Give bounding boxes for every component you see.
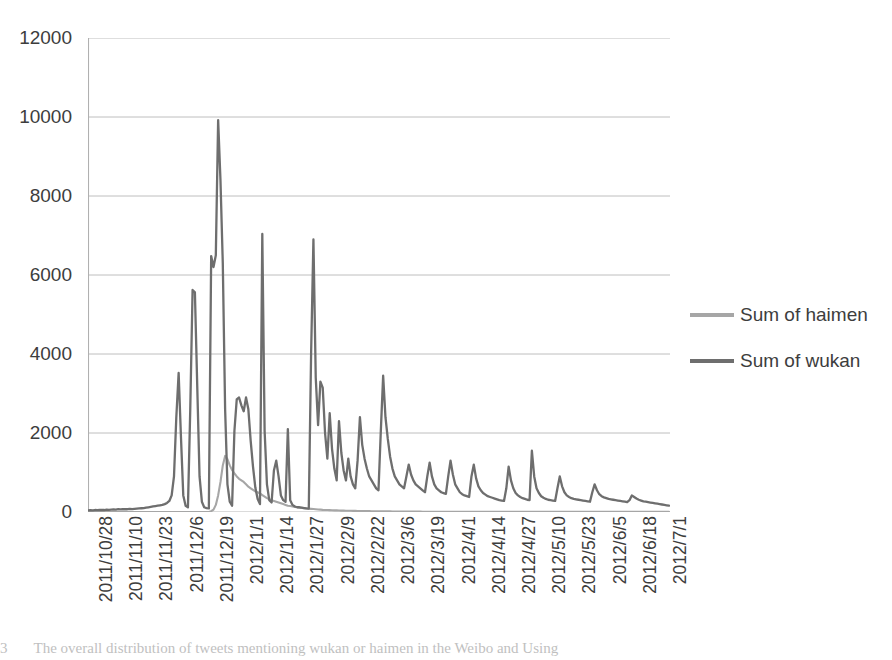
- x-tick-label: 2012/6/18: [642, 516, 660, 594]
- series-line-wukan: [88, 120, 669, 510]
- figure-caption: 3The overall distribution of tweets ment…: [0, 640, 892, 657]
- y-tick-label: 8000: [30, 185, 72, 207]
- x-tick-label: 2012/1/1: [249, 516, 267, 584]
- x-tick-label: 2012/2/9: [340, 516, 358, 584]
- x-tick-label: 2012/1/14: [279, 516, 297, 594]
- y-tick-label: 12000: [19, 27, 72, 49]
- legend-swatch-icon: [690, 313, 734, 317]
- legend-item[interactable]: Sum of haimen: [690, 292, 890, 338]
- caption-number: 3: [0, 640, 8, 656]
- x-tick-label: 2012/4/27: [521, 516, 539, 594]
- y-tick-label: 4000: [30, 343, 72, 365]
- x-axis: 2011/10/282011/11/102011/11/232011/12/62…: [88, 516, 670, 636]
- x-tick-label: 2011/10/28: [98, 516, 116, 602]
- figure-container: 020004000600080001000012000 2011/10/2820…: [0, 0, 892, 660]
- line-chart-svg: [88, 38, 670, 512]
- y-tick-label: 0: [61, 501, 72, 523]
- x-tick-label: 2011/12/6: [189, 516, 207, 593]
- x-tick-label: 2012/7/1: [672, 516, 690, 584]
- x-tick-label: 2012/6/5: [612, 516, 630, 584]
- x-tick-label: 2012/5/10: [551, 516, 569, 594]
- x-tick-label: 2012/4/1: [461, 516, 479, 584]
- y-axis: 020004000600080001000012000: [0, 38, 82, 512]
- chart-legend: Sum of haimenSum of wukan: [690, 292, 890, 384]
- x-tick-label: 2012/4/14: [491, 516, 509, 594]
- y-tick-label: 6000: [30, 264, 72, 286]
- y-tick-label: 2000: [30, 422, 72, 444]
- x-tick-label: 2011/11/10: [128, 516, 146, 601]
- x-tick-label: 2011/11/23: [158, 516, 176, 601]
- x-tick-label: 2012/2/22: [370, 516, 388, 594]
- caption-text: The overall distribution of tweets menti…: [34, 640, 559, 656]
- x-tick-label: 2012/1/27: [309, 516, 327, 594]
- legend-item[interactable]: Sum of wukan: [690, 338, 890, 384]
- legend-swatch-icon: [690, 359, 734, 363]
- y-tick-label: 10000: [19, 106, 72, 128]
- legend-label: Sum of wukan: [740, 350, 860, 372]
- x-tick-label: 2012/3/19: [430, 516, 448, 594]
- x-tick-label: 2012/3/6: [400, 516, 418, 584]
- chart-plot-area: [88, 38, 670, 512]
- legend-label: Sum of haimen: [740, 304, 868, 326]
- x-tick-label: 2011/12/19: [219, 516, 237, 602]
- x-tick-label: 2012/5/23: [581, 516, 599, 594]
